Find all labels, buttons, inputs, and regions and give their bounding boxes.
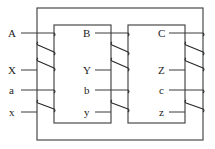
transformer-core: [37, 8, 203, 140]
label-c: c: [159, 84, 164, 96]
label-X: X: [8, 64, 16, 76]
hv-coil-1: [37, 33, 55, 71]
label-z: z: [159, 106, 164, 118]
label-a: a: [9, 84, 14, 96]
label-Y: Y: [83, 64, 91, 76]
lv-coil-3: [185, 90, 204, 112]
transformer-diagram: A X a x B Y b y C Z c z: [0, 0, 215, 149]
phase-2-windings: [95, 33, 129, 112]
label-x: x: [9, 106, 15, 118]
label-C: C: [158, 27, 165, 39]
label-y: y: [84, 106, 90, 118]
hv-coil-3: [185, 33, 204, 71]
core-window-right: [128, 25, 185, 123]
label-Z: Z: [158, 64, 165, 76]
terminal-labels: A X a x B Y b y C Z c z: [8, 27, 165, 118]
lv-coil-1: [37, 90, 55, 112]
phase-1-windings: [21, 33, 55, 112]
label-B: B: [83, 27, 90, 39]
label-A: A: [8, 27, 16, 39]
lv-coil-2: [111, 90, 129, 112]
core-outer-frame: [37, 8, 203, 140]
phase-3-windings: [169, 33, 204, 112]
label-b: b: [84, 84, 90, 96]
hv-coil-2: [111, 33, 129, 71]
